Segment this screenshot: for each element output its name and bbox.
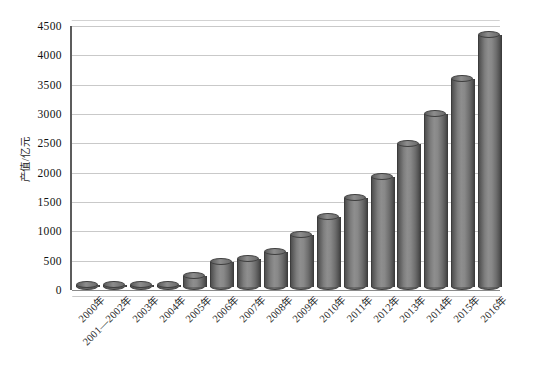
x-tick-label-2011年: 2011年 — [343, 292, 376, 325]
x-tick-label-2015年: 2015年 — [449, 292, 482, 325]
bar-body — [344, 198, 368, 287]
y-tick-label-2500: 2500 — [37, 137, 62, 149]
bar-2007年 — [237, 255, 259, 290]
bar-body — [264, 252, 288, 287]
bar-2004年 — [157, 281, 179, 290]
y-tick-label-3000: 3000 — [37, 108, 62, 120]
bar-body — [478, 35, 502, 287]
bar-top-ellipse — [424, 110, 446, 117]
x-tick-label-2008年: 2008年 — [262, 292, 295, 325]
y-tick-label-1000: 1000 — [37, 225, 62, 237]
bar-2014年 — [424, 110, 446, 290]
x-tick-label-2007年: 2007年 — [235, 292, 268, 325]
bar-top-ellipse — [130, 281, 152, 288]
bar-2000年 — [76, 281, 98, 290]
bar-body — [371, 177, 395, 287]
bar-chart: 产值/亿元 0500100015002000250030003500400045… — [0, 0, 535, 367]
x-tick-label-2004年: 2004年 — [155, 292, 188, 325]
x-tick-label-2005年: 2005年 — [182, 292, 215, 325]
bar-2011年 — [344, 194, 366, 290]
plot-area — [72, 26, 500, 290]
y-tick-label-3500: 3500 — [37, 79, 62, 91]
y-tick-label-500: 500 — [44, 255, 62, 267]
bar-body — [424, 114, 448, 287]
bar-top-ellipse — [157, 281, 179, 288]
y-tick-label-4500: 4500 — [37, 20, 62, 32]
bar-top-ellipse — [183, 272, 205, 279]
x-tick-label-2010年: 2010年 — [315, 292, 348, 325]
y-tick-label-1500: 1500 — [37, 196, 62, 208]
bar-2006年 — [210, 258, 232, 290]
x-tick-label-2006年: 2006年 — [208, 292, 241, 325]
bar-2005年 — [183, 272, 205, 290]
y-tick-label-0: 0 — [56, 284, 62, 296]
bar-2003年 — [130, 281, 152, 290]
x-tick-label-2014年: 2014年 — [422, 292, 455, 325]
bar-body — [210, 262, 234, 287]
bar-2013年 — [397, 140, 419, 290]
x-tick-label-2003年: 2003年 — [128, 292, 161, 325]
bar-body — [451, 79, 475, 287]
x-tick-label-2013年: 2013年 — [396, 292, 429, 325]
bar-top-ellipse — [451, 75, 473, 82]
bar-top-ellipse — [344, 194, 366, 201]
bar-body — [290, 235, 314, 287]
bar-top-ellipse — [103, 281, 125, 288]
bar-series — [72, 26, 500, 290]
bar-top-ellipse — [264, 248, 286, 255]
bar-top-ellipse — [371, 173, 393, 180]
bar-2001—2002年 — [103, 281, 125, 290]
bar-2009年 — [290, 231, 312, 290]
bar-top-ellipse — [317, 213, 339, 220]
y-tick-label-4000: 4000 — [37, 49, 62, 61]
bar-2015年 — [451, 75, 473, 290]
y-axis-tick-labels: 050010001500200025003000350040004500 — [0, 26, 66, 290]
bar-top-ellipse — [478, 31, 500, 38]
bar-2012年 — [371, 173, 393, 290]
bar-body — [317, 217, 341, 287]
bar-body — [237, 259, 261, 287]
bar-2010年 — [317, 213, 339, 290]
x-tick-label-2016年: 2016年 — [476, 292, 509, 325]
x-axis-tick-labels: 2000年2001—2002年2003年2004年2005年2006年2007年… — [72, 292, 500, 367]
bar-body — [397, 144, 421, 287]
bar-2008年 — [264, 248, 286, 290]
x-tick-label-2012年: 2012年 — [369, 292, 402, 325]
bar-2016年 — [478, 31, 500, 290]
y-tick-label-2000: 2000 — [37, 167, 62, 179]
x-tick-label-2009年: 2009年 — [289, 292, 322, 325]
